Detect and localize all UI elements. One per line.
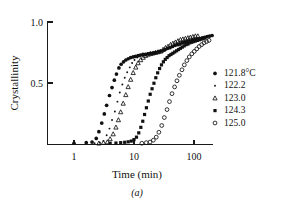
data-point xyxy=(210,34,214,38)
figure-caption: (a) xyxy=(131,187,143,199)
data-point xyxy=(165,108,169,112)
data-point xyxy=(119,141,122,144)
data-point xyxy=(127,140,130,143)
data-point xyxy=(196,34,200,38)
legend-label: 122.2 xyxy=(224,80,246,90)
data-point xyxy=(157,130,161,134)
data-point xyxy=(97,130,101,134)
y-tick-label-1.0: 1.0 xyxy=(31,17,44,28)
data-point xyxy=(147,99,150,102)
series-123.0 xyxy=(97,34,200,145)
data-point xyxy=(135,136,138,139)
data-point xyxy=(117,66,121,70)
data-point xyxy=(141,120,144,123)
data-point xyxy=(182,63,186,67)
data-point xyxy=(154,76,157,79)
data-point xyxy=(111,132,115,136)
x-tick-label-1: 1 xyxy=(72,151,77,162)
data-point xyxy=(90,140,94,144)
data-point xyxy=(119,91,121,93)
data-point xyxy=(114,141,117,144)
data-point xyxy=(203,36,206,39)
legend-marker-filled-circle xyxy=(213,72,217,76)
data-point xyxy=(115,72,119,76)
data-point xyxy=(121,84,123,86)
data-point xyxy=(181,42,183,44)
legend-item: 121.8°C xyxy=(213,68,255,78)
data-point xyxy=(111,119,113,121)
data-point xyxy=(152,82,155,85)
crystallinity-vs-time-chart: 1.0 0.5 1 10 100 Time (min) Crystallinit… xyxy=(0,0,284,203)
data-point xyxy=(130,139,133,142)
data-point xyxy=(119,110,123,114)
chart-legend: 121.8°C122.2123.0124.3125.0 xyxy=(213,68,256,128)
data-point xyxy=(149,93,152,96)
data-point xyxy=(126,71,128,73)
data-point xyxy=(100,121,104,125)
legend-label: 121.8°C xyxy=(224,68,256,78)
legend-marker-open-circle xyxy=(213,121,217,125)
data-point xyxy=(108,137,112,141)
legend-item: 125.0 xyxy=(213,118,246,128)
x-axis-title: Time (min) xyxy=(112,168,162,181)
data-point xyxy=(109,142,112,145)
data-point xyxy=(139,126,142,129)
data-point xyxy=(137,131,140,134)
data-point xyxy=(108,94,112,98)
data-point xyxy=(156,71,159,74)
data-point xyxy=(114,110,116,112)
data-point xyxy=(139,58,143,62)
data-point xyxy=(173,85,177,89)
data-point xyxy=(185,59,189,63)
data-point xyxy=(134,59,136,61)
data-point xyxy=(94,142,96,144)
data-point xyxy=(160,63,163,66)
data-point xyxy=(134,65,138,69)
data-point xyxy=(124,77,126,79)
data-point xyxy=(117,101,119,103)
legend-label: 124.3 xyxy=(224,105,246,115)
data-point xyxy=(162,116,166,120)
data-point xyxy=(123,141,126,144)
legend-marker-filled-square xyxy=(213,109,216,112)
data-point xyxy=(129,77,133,81)
legend-label: 123.0 xyxy=(224,93,246,103)
y-axis-ticks xyxy=(48,22,53,83)
legend-marker-open-triangle xyxy=(213,96,217,100)
data-point xyxy=(121,101,125,105)
data-point xyxy=(158,67,161,70)
data-point xyxy=(168,100,172,104)
data-point xyxy=(131,71,135,75)
data-point xyxy=(139,55,141,57)
data-point xyxy=(175,79,179,83)
data-point xyxy=(105,103,109,107)
data-point xyxy=(109,128,111,130)
data-point xyxy=(177,73,181,77)
legend-marker-small-dot xyxy=(214,85,216,87)
data-point xyxy=(170,92,174,96)
data-point xyxy=(102,112,106,116)
data-point xyxy=(160,124,164,128)
legend-item: 123.0 xyxy=(213,93,246,103)
legend-item: 122.2 xyxy=(214,80,246,90)
data-point xyxy=(94,137,98,141)
legend-item: 124.3 xyxy=(213,105,245,115)
data-point xyxy=(136,57,138,59)
y-axis-title: Crystallinity xyxy=(8,55,20,111)
data-point xyxy=(124,93,128,97)
data-point xyxy=(116,118,120,122)
data-point xyxy=(112,78,116,82)
data-point xyxy=(131,62,133,64)
data-point xyxy=(110,86,114,90)
data-point xyxy=(150,87,153,90)
figure-panel: 1.0 0.5 1 10 100 Time (min) Crystallinit… xyxy=(0,0,284,203)
data-point xyxy=(183,41,185,43)
data-point xyxy=(72,141,76,145)
y-tick-label-0.5: 0.5 xyxy=(31,78,44,89)
data-point xyxy=(151,138,155,142)
data-point xyxy=(106,134,108,136)
data-point xyxy=(154,135,158,139)
legend-label: 125.0 xyxy=(224,118,246,128)
data-point xyxy=(129,66,131,68)
data-point xyxy=(143,113,146,116)
